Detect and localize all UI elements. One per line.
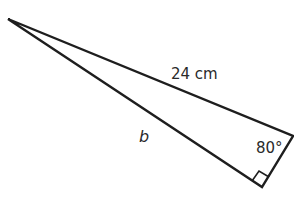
side-b-label: b: [139, 127, 149, 146]
triangle: [8, 19, 293, 187]
triangle-diagram: 24 cm b 80°: [0, 0, 294, 197]
hypotenuse-label: 24 cm: [171, 65, 218, 83]
angle-label: 80°: [256, 139, 283, 157]
